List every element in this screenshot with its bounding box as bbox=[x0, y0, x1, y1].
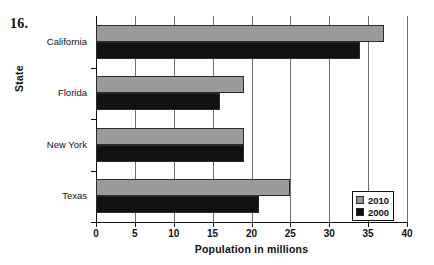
bar-chart: 0510152025303540 CaliforniaFloridaNew Yo… bbox=[0, 0, 434, 265]
x-axis-title: Population in millions bbox=[96, 243, 407, 255]
y-tick-3 bbox=[91, 222, 96, 223]
gridline-40 bbox=[407, 16, 408, 222]
x-tick-label-10: 10 bbox=[159, 228, 189, 239]
x-tick-40 bbox=[407, 222, 408, 227]
bar-california-2010 bbox=[96, 25, 384, 42]
legend-label-2000: 2000 bbox=[368, 207, 389, 218]
bar-new-york-2010 bbox=[96, 128, 244, 145]
legend-item-2000: 2000 bbox=[356, 206, 389, 218]
legend-swatch-2000-icon bbox=[356, 208, 364, 216]
x-tick-label-0: 0 bbox=[81, 228, 111, 239]
y-category-label-california: California bbox=[47, 36, 87, 47]
bar-new-york-2000 bbox=[96, 145, 244, 162]
x-tick-label-25: 25 bbox=[275, 228, 305, 239]
bar-florida-2010 bbox=[96, 76, 244, 93]
y-category-label-texas: Texas bbox=[62, 190, 87, 201]
x-tick-label-5: 5 bbox=[120, 228, 150, 239]
bar-california-2000 bbox=[96, 42, 360, 59]
x-tick-5 bbox=[135, 222, 136, 227]
x-tick-label-30: 30 bbox=[314, 228, 344, 239]
x-tick-label-40: 40 bbox=[392, 228, 422, 239]
legend: 2010 2000 bbox=[352, 191, 394, 221]
x-tick-15 bbox=[213, 222, 214, 227]
y-category-label-florida: Florida bbox=[58, 87, 87, 98]
x-tick-0 bbox=[96, 222, 97, 227]
legend-label-2010: 2010 bbox=[368, 195, 389, 206]
y-axis-title: State bbox=[13, 65, 25, 92]
x-tick-35 bbox=[368, 222, 369, 227]
legend-item-2010: 2010 bbox=[356, 194, 389, 206]
bar-florida-2000 bbox=[96, 93, 220, 110]
bar-texas-2000 bbox=[96, 196, 259, 213]
x-tick-20 bbox=[252, 222, 253, 227]
x-tick-label-15: 15 bbox=[198, 228, 228, 239]
y-category-label-new-york: New York bbox=[47, 139, 87, 150]
y-tick-1 bbox=[91, 119, 96, 120]
y-tick-0 bbox=[91, 68, 96, 69]
x-tick-10 bbox=[174, 222, 175, 227]
legend-swatch-2010-icon bbox=[356, 196, 364, 204]
x-tick-label-20: 20 bbox=[237, 228, 267, 239]
x-tick-25 bbox=[290, 222, 291, 227]
bar-texas-2010 bbox=[96, 179, 290, 196]
y-tick-2 bbox=[91, 171, 96, 172]
x-tick-30 bbox=[329, 222, 330, 227]
x-tick-label-35: 35 bbox=[353, 228, 383, 239]
